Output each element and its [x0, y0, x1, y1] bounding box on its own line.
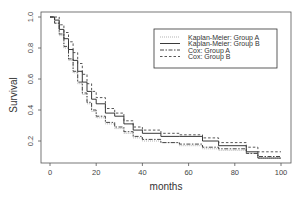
legend-label-cox-b: Cox: Group B	[188, 53, 231, 61]
x-tick-label: 20	[92, 168, 100, 177]
y-tick-label: 0.2	[26, 136, 35, 146]
x-axis-ticks: 020406080100	[48, 163, 287, 177]
x-tick-label: 0	[48, 168, 52, 177]
x-tick-label: 80	[231, 168, 239, 177]
y-axis-ticks: 0.20.40.60.81.0	[26, 12, 41, 146]
x-tick-label: 60	[184, 168, 192, 177]
y-tick-label: 1.0	[26, 12, 35, 22]
y-tick-label: 0.6	[26, 74, 35, 84]
legend: Kaplan-Meier: Group A Kaplan-Meier: Grou…	[154, 29, 277, 68]
y-tick-label: 0.4	[26, 105, 35, 115]
x-axis-title: months	[150, 181, 183, 192]
survival-chart: 020406080100 0.20.40.60.81.0 months Surv…	[0, 0, 303, 202]
x-tick-label: 100	[275, 168, 288, 177]
y-tick-label: 0.8	[26, 43, 35, 53]
x-tick-label: 40	[138, 168, 146, 177]
y-axis-title: Survival	[8, 77, 19, 113]
